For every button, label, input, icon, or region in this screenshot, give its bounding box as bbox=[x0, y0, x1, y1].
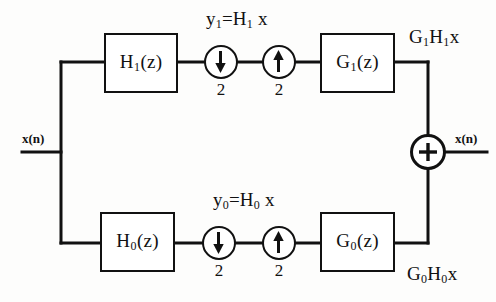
interpolator-upper-factor: 2 bbox=[262, 80, 296, 100]
synthesis-filter-g0-label: G0(z) bbox=[336, 230, 378, 254]
upper-branch-output-label: G1H1x bbox=[409, 26, 459, 50]
decimator-lower-factor: 2 bbox=[202, 261, 236, 281]
analysis-filter-h1[interactable]: H1(z) bbox=[104, 33, 178, 93]
synthesis-filter-g1[interactable]: G1(z) bbox=[320, 33, 395, 93]
plus-icon bbox=[413, 137, 443, 167]
filter-bank-diagram: H1(z) 2 2 G1(z) y1=H1 x G1H1x H0(z) 2 bbox=[0, 0, 496, 302]
analysis-filter-h0[interactable]: H0(z) bbox=[100, 212, 175, 272]
up-arrow-icon bbox=[264, 47, 293, 76]
down-arrow-icon bbox=[204, 228, 233, 257]
analysis-filter-h1-label: H1(z) bbox=[120, 51, 162, 75]
lower-branch-output-label: G0H0x bbox=[407, 263, 457, 287]
analysis-filter-h0-label: H0(z) bbox=[116, 230, 158, 254]
interpolator-upper[interactable] bbox=[262, 45, 296, 79]
down-arrow-icon bbox=[206, 47, 235, 76]
input-port-label: x(n) bbox=[22, 131, 44, 147]
summing-junction[interactable] bbox=[410, 134, 446, 170]
interpolator-lower[interactable] bbox=[262, 226, 296, 260]
synthesis-filter-g1-label: G1(z) bbox=[336, 51, 378, 75]
synthesis-filter-g0[interactable]: G0(z) bbox=[320, 212, 395, 272]
decimator-lower[interactable] bbox=[202, 226, 236, 260]
interpolator-lower-factor: 2 bbox=[262, 261, 296, 281]
output-port-label: x(n) bbox=[455, 131, 477, 147]
decimator-upper[interactable] bbox=[204, 45, 238, 79]
decimator-upper-factor: 2 bbox=[204, 80, 238, 100]
upper-intermediate-signal-label: y1=H1 x bbox=[206, 8, 267, 32]
lower-intermediate-signal-label: y0=H0 x bbox=[213, 189, 274, 213]
up-arrow-icon bbox=[264, 228, 293, 257]
